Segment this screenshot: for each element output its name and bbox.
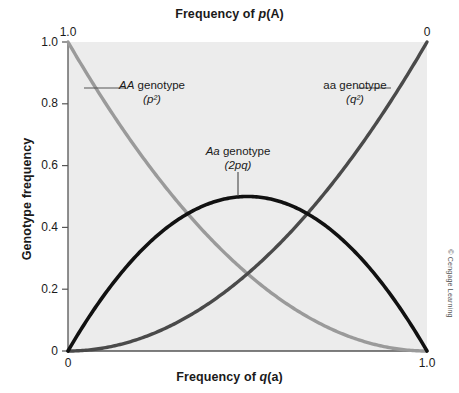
annotation-aa-genotype: aa genotype (q²) [300,78,410,106]
annotation-aa-genotype-allele: aa [323,79,336,91]
annotation-Aa-genotype-symbol: (2pq) [178,158,298,172]
annotation-AA-genotype-line1: AA genotype [92,78,212,92]
annotation-AA-genotype: AA genotype (p²) [92,78,212,106]
annotation-Aa-genotype-line1: Aa genotype [178,144,298,158]
annotation-Aa-genotype-allele: Aa [206,145,220,157]
y-axis-title: Genotype frequency [20,99,34,299]
chart-title-prefix: Frequency of [175,7,258,21]
annotation-aa-genotype-symbol: (q²) [300,92,410,106]
annotation-Aa-genotype: Aa genotype (2pq) [178,144,298,172]
top-axis-tick-0: 0 [410,25,444,39]
annotation-aa-genotype-word: genotype [336,79,387,91]
x-axis-title-prefix: Frequency of [176,370,259,384]
copyright-credit: © Cengage Learning [447,244,454,324]
y-axis-tick-1.0: 1.0 [24,35,58,49]
annotation-aa-genotype-line1: aa genotype [300,78,410,92]
annotation-AA-genotype-allele: AA [119,79,134,91]
x-axis-tick-0: 0 [51,356,85,370]
chart-title-symbol: p [258,7,266,21]
x-axis-title-suffix: (a) [267,370,283,384]
chart-title-suffix: (A) [266,7,284,21]
annotation-AA-genotype-word: genotype [134,79,185,91]
annotation-AA-genotype-symbol: (p²) [92,92,212,106]
chart-title: Frequency of p(A) [0,7,459,21]
x-axis-title: Frequency of q(a) [0,370,459,384]
x-axis-tick-1.0: 1.0 [410,356,444,370]
hardy-weinberg-genotype-frequency-chart: Frequency of p(A) 1.0 0 1.0 0.8 0.6 0.4 … [0,0,459,393]
annotation-Aa-genotype-word: genotype [220,145,271,157]
